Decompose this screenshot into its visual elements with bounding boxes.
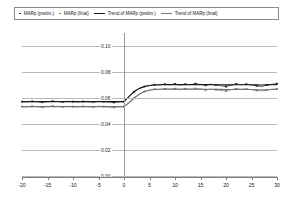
data-point-marker (246, 83, 248, 85)
data-point-marker (42, 101, 44, 103)
data-point-marker (103, 101, 105, 103)
plot-area: 0.000.020.040.060.080.10 (22, 33, 277, 176)
series-line (22, 85, 277, 102)
legend-label: Trend of MARp (final) (175, 11, 218, 16)
data-point-marker (52, 105, 54, 107)
x-axis-label: 5 (148, 182, 151, 188)
data-point-marker (133, 91, 135, 93)
y-gridline (22, 124, 277, 125)
x-axis-tick (48, 177, 49, 180)
data-point-marker (72, 106, 74, 108)
data-point-marker (174, 88, 176, 90)
data-point-marker (174, 83, 176, 85)
x-axis-label: -5 (96, 182, 101, 188)
legend-label: MARp (prelim.) (24, 11, 54, 16)
legend-marker-dot (59, 13, 61, 15)
data-point-marker (21, 101, 23, 103)
data-point-marker (154, 88, 156, 90)
y-gridline (22, 98, 277, 99)
data-point-marker (246, 88, 248, 90)
data-point-marker (184, 88, 186, 90)
data-point-marker (72, 101, 74, 103)
legend-marp-prelim[interactable]: MARp (prelim.) (18, 11, 54, 16)
data-point-marker (205, 89, 207, 91)
legend-marker-dot (19, 13, 21, 15)
data-point-marker (62, 106, 64, 108)
series-line (22, 84, 277, 103)
data-point-marker (62, 101, 64, 103)
x-axis-tick (124, 177, 125, 180)
x-axis-tick (277, 177, 278, 180)
x-axis-tick (175, 177, 176, 180)
data-point-marker (103, 106, 105, 108)
data-point-marker (144, 86, 146, 88)
x-axis-tick (201, 177, 202, 180)
data-point-marker (164, 88, 166, 90)
x-axis-label: -10 (69, 182, 76, 188)
y-axis-label: 0.00 (100, 173, 112, 179)
x-axis-tick (252, 177, 253, 180)
data-point-marker (235, 88, 237, 90)
x-axis-tick (226, 177, 227, 180)
data-point-marker (256, 85, 258, 87)
x-axis-label: -15 (44, 182, 51, 188)
data-point-marker (42, 106, 44, 108)
data-point-marker (235, 83, 237, 85)
x-axis-label: 25 (249, 182, 255, 188)
data-point-marker (215, 84, 217, 86)
data-point-marker (113, 106, 115, 108)
data-point-marker (256, 90, 258, 92)
series-canvas (22, 33, 277, 176)
legend-marker-line (94, 13, 105, 14)
data-point-marker (225, 90, 227, 92)
data-point-marker (184, 83, 186, 85)
y-axis-label: 0.06 (100, 95, 112, 101)
y-axis-label: 0.08 (100, 69, 112, 75)
y-axis-label: 0.04 (100, 121, 112, 127)
data-point-marker (144, 91, 146, 93)
data-point-marker (21, 106, 23, 108)
legend-label: Trend of MARp (prelim.) (108, 11, 156, 16)
data-point-marker (31, 100, 33, 102)
y-gridline (22, 46, 277, 47)
x-axis-label: 20 (223, 182, 229, 188)
chart-root: MARp (prelim.)MARp (final)Trend of MARp … (0, 0, 293, 200)
data-point-marker (52, 100, 54, 102)
y-gridline (22, 150, 277, 151)
data-point-marker (195, 88, 197, 90)
data-point-marker (93, 106, 95, 108)
x-axis-tick (99, 177, 100, 180)
legend-trend-prelim[interactable]: Trend of MARp (prelim.) (93, 11, 156, 16)
x-axis-label: 0 (123, 182, 126, 188)
data-point-marker (225, 86, 227, 88)
legend-label: MARp (final) (64, 11, 89, 16)
data-point-marker (113, 102, 115, 104)
data-point-marker (276, 88, 278, 90)
data-point-marker (31, 105, 33, 107)
x-axis-label: 15 (198, 182, 204, 188)
y-axis-label: 0.10 (100, 43, 112, 49)
x-axis-tick (73, 177, 74, 180)
event-vertical-line (124, 33, 125, 176)
chart-legend: MARp (prelim.)MARp (final)Trend of MARp … (14, 7, 279, 20)
data-point-marker (195, 83, 197, 85)
x-axis-label: 30 (274, 182, 280, 188)
y-axis-label: 0.02 (100, 147, 112, 153)
data-point-marker (154, 84, 156, 86)
data-point-marker (82, 106, 84, 108)
legend-trend-final[interactable]: Trend of MARp (final) (160, 11, 218, 16)
data-point-marker (276, 83, 278, 85)
x-axis-tick (22, 177, 23, 180)
legend-marker-line (161, 13, 172, 14)
x-axis-label: -20 (18, 182, 25, 188)
data-point-marker (164, 83, 166, 85)
data-point-marker (82, 101, 84, 103)
data-point-marker (205, 84, 207, 86)
data-point-marker (266, 89, 268, 91)
legend-marp-final[interactable]: MARp (final) (58, 11, 89, 16)
x-axis-label: 10 (172, 182, 178, 188)
x-axis-tick (150, 177, 151, 180)
data-point-marker (93, 101, 95, 103)
y-gridline (22, 72, 277, 73)
data-point-marker (215, 89, 217, 91)
